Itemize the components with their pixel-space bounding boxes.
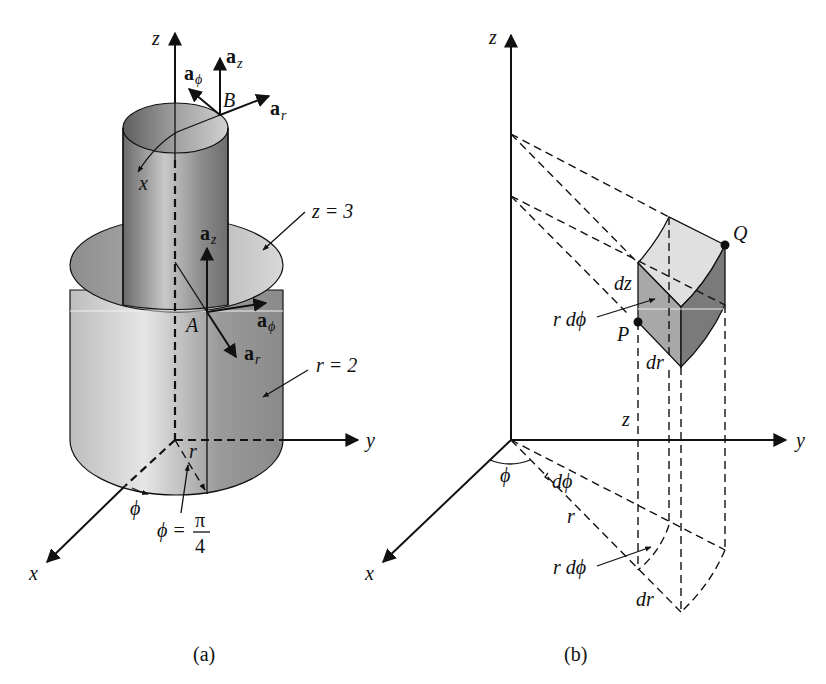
base-radial-1 [511, 440, 681, 612]
figure-a: z y x r ϕ ϕ = π 4 a z a ϕ a [28, 27, 375, 666]
phi-eq-denominator: 4 [195, 535, 205, 557]
z-axis-label-a: z [151, 27, 160, 49]
dr-bottom-label: dr [636, 588, 654, 610]
a-phi-B-label: a [184, 62, 194, 84]
proj-line-2 [511, 134, 638, 263]
cylinder-r2-label: r = 2 [316, 354, 357, 376]
r-label-b: r [567, 505, 575, 527]
a-phi-A-label: a [257, 309, 267, 331]
dphi-angle-mark [545, 473, 549, 480]
a-z-B-sub: z [236, 56, 243, 71]
plane-z3-label: z = 3 [311, 200, 353, 222]
phi-label-a: ϕ [130, 497, 140, 520]
point-B-label: B [223, 89, 235, 111]
r-dphi-bottom-pointer [597, 547, 651, 566]
z-height-label-b: z [621, 408, 630, 430]
r-label-a: r [189, 440, 197, 462]
x-axis-a [47, 486, 125, 562]
inner-x-label: x [138, 172, 148, 194]
base-arc-outer [681, 550, 725, 612]
point-P-marker [634, 318, 643, 327]
x-axis-label-b: x [364, 562, 374, 584]
phi-eq-lhs: ϕ = [157, 519, 186, 542]
a-phi-A-sub: ϕ [268, 319, 275, 334]
caption-b: (b) [564, 643, 587, 666]
dr-top-label: dr [646, 351, 664, 373]
r-dphi-bottom-label: r dϕ [553, 556, 586, 579]
base-arc-inner [638, 525, 669, 570]
y-axis-label-b: y [794, 429, 805, 452]
point-P-label: P [616, 323, 629, 345]
dphi-label-b: dϕ [552, 470, 572, 493]
phi-eq-numerator: π [195, 509, 205, 531]
proj-line-4 [511, 196, 630, 316]
a-r-A-label: a [244, 342, 254, 364]
a-r-B-label: a [270, 97, 280, 119]
z-axis-label-b: z [488, 26, 497, 48]
r-dphi-top-label: r dϕ [553, 308, 586, 331]
dz-label: dz [614, 272, 632, 294]
phi-label-b: ϕ [500, 464, 510, 487]
z3-pointer [263, 212, 305, 250]
point-Q-label: Q [733, 222, 748, 244]
point-A-label: A [184, 314, 199, 336]
cylindrical-coordinates-figure: z y x r ϕ ϕ = π 4 a z a ϕ a [0, 0, 826, 684]
x-axis-b [383, 440, 511, 562]
a-z-B-label: a [226, 45, 236, 67]
y-axis-label-a: y [364, 429, 375, 452]
a-r-B-sub: r [281, 108, 287, 123]
a-z-A-sub: z [210, 232, 217, 247]
proj-line-1 [511, 134, 669, 217]
figure-b: z y x ϕ dϕ r r dϕ dr [364, 26, 805, 666]
point-Q-marker [721, 241, 730, 250]
a-r-A-sub: r [255, 352, 261, 367]
outer-cylinder-body [70, 290, 283, 495]
a-phi-B-sub: ϕ [195, 72, 202, 87]
a-z-A-label: a [200, 222, 210, 244]
base-radial-2 [511, 440, 725, 550]
caption-a: (a) [193, 643, 215, 666]
x-axis-label-a: x [28, 562, 38, 584]
